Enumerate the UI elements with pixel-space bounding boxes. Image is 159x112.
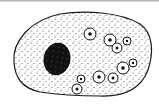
vacuole-core [112, 77, 115, 80]
vacuole-core [126, 40, 128, 42]
vacuole-core [121, 66, 125, 70]
vacuole-core [76, 88, 79, 91]
cell-membrane [14, 12, 152, 96]
cell-diagram [0, 0, 159, 112]
vacuole-core [108, 38, 112, 42]
vacuole-core [132, 62, 134, 64]
vacuole-core [88, 32, 92, 36]
vacuole-core [116, 47, 119, 50]
vacuole-core [97, 75, 101, 79]
vacuole-core [80, 78, 82, 80]
